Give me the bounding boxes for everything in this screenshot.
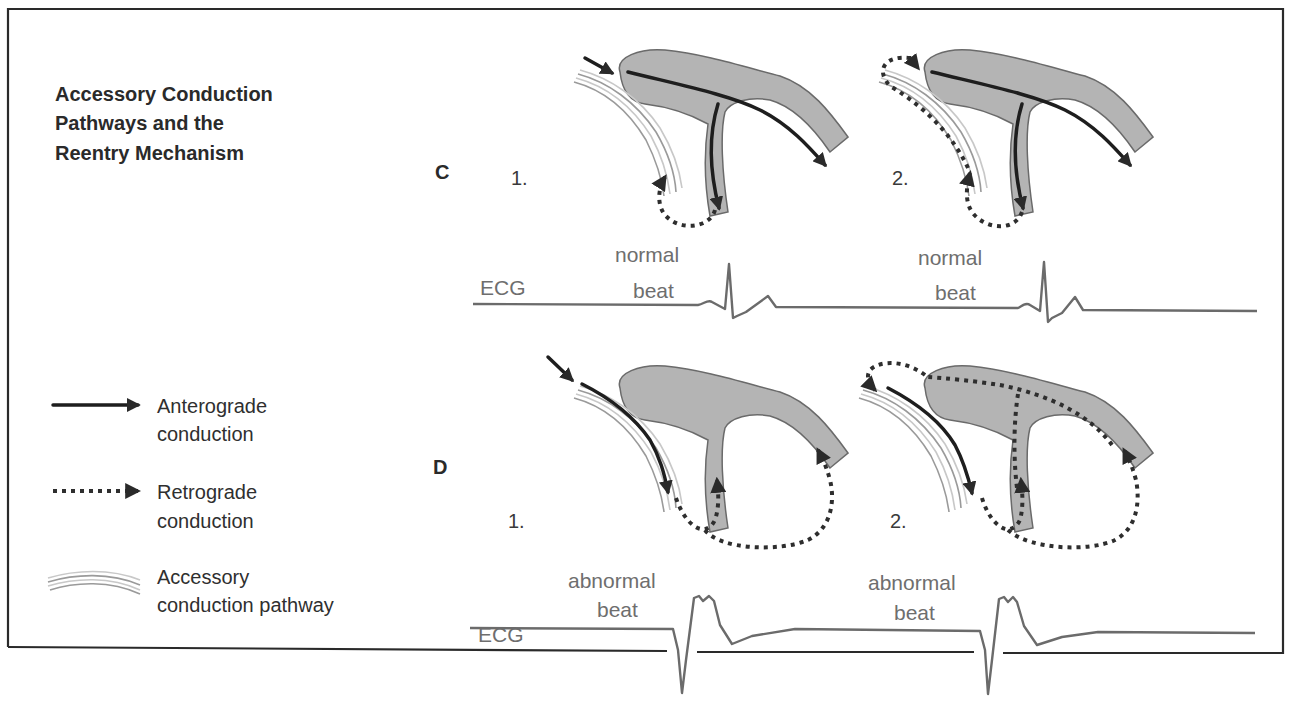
svg-text:ECG: ECG (478, 623, 524, 646)
svg-text:Accessory Conduction: Accessory Conduction (55, 83, 273, 105)
panel-d-step-2: 2. (859, 363, 1153, 547)
svg-text:beat: beat (935, 281, 976, 304)
legend-item-retrograde: Retrograde conduction (53, 481, 257, 532)
panel-label-d: D (433, 456, 447, 478)
svg-text:Anterograde: Anterograde (157, 395, 267, 417)
step-number: 2. (892, 167, 909, 189)
svg-text:Accessory: Accessory (157, 566, 249, 588)
svg-text:conduction: conduction (157, 510, 254, 532)
legend-item-anterograde: Anterograde conduction (53, 395, 267, 445)
svg-text:beat: beat (597, 598, 638, 621)
svg-text:beat: beat (894, 601, 935, 624)
svg-text:ECG: ECG (480, 276, 526, 299)
panel-label-c: C (435, 161, 449, 183)
ecg-abnormal-trace: ECG abnormal beat abnormal beat (470, 569, 1255, 694)
svg-text:normal: normal (615, 243, 679, 266)
panel-c-step-1: 1. (511, 50, 848, 226)
svg-text:abnormal: abnormal (568, 569, 656, 592)
step-number: 1. (508, 510, 525, 532)
accessory-pathway-icon (48, 572, 140, 595)
svg-text:normal: normal (918, 246, 982, 269)
svg-text:beat: beat (633, 279, 674, 302)
diagram-canvas: Accessory Conduction Pathways and the Re… (0, 0, 1292, 702)
svg-text:conduction: conduction (157, 423, 254, 445)
svg-text:abnormal: abnormal (868, 571, 956, 594)
ecg-normal-trace: ECG normal beat normal beat (473, 243, 1257, 322)
figure-title: Accessory Conduction Pathways and the Re… (55, 83, 273, 164)
av-node-shape (619, 50, 848, 216)
svg-text:Reentry Mechanism: Reentry Mechanism (55, 142, 244, 164)
step-number: 2. (890, 510, 907, 532)
svg-text:Pathways and the: Pathways and the (55, 112, 224, 134)
panel-c-step-2: 2. (879, 50, 1153, 227)
svg-text:Retrograde: Retrograde (157, 481, 257, 503)
step-number: 1. (511, 167, 528, 189)
svg-text:conduction pathway: conduction pathway (157, 594, 334, 616)
panel-d-step-1: 1. (508, 357, 848, 547)
legend-item-accessory: Accessory conduction pathway (48, 566, 334, 616)
legend: Anterograde conduction Retrograde conduc… (48, 395, 334, 616)
entry-arrow-icon (585, 58, 612, 73)
